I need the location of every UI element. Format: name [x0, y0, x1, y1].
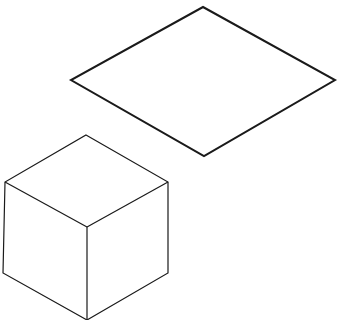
background	[0, 0, 345, 320]
drawing-canvas	[0, 0, 345, 320]
diagram-svg	[0, 0, 345, 320]
